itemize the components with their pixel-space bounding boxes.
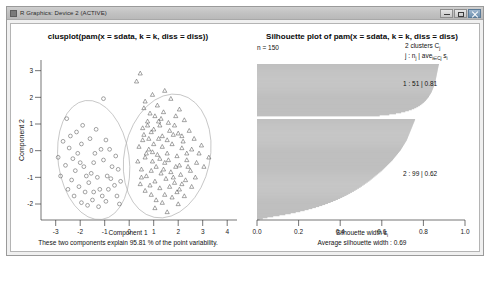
- silhouette-cluster1-label: 1 : 51 | 0.81: [403, 80, 438, 88]
- svg-text:-1: -1: [27, 174, 33, 181]
- clusplot-svg: 3210-1-2Component 2 -3-2-101234: [11, 24, 247, 252]
- clusplot-panel: clusplot(pam(x = sdata, k = k, diss = di…: [11, 24, 245, 251]
- silhouette-cluster2-label: 2 : 99 | 0.62: [403, 170, 438, 178]
- svg-text:3: 3: [29, 67, 33, 74]
- clusplot-footer: These two components explain 95.81 % of …: [11, 239, 245, 246]
- svg-text:1: 1: [29, 120, 33, 127]
- cluster2-points: [134, 71, 210, 214]
- window-titlebar[interactable]: R Graphics: Device 2 (ACTIVE): [7, 7, 483, 20]
- silhouette-xlabel: Silhouette width si: [245, 229, 479, 238]
- minimize-button[interactable]: [440, 9, 453, 18]
- svg-text:2: 2: [29, 94, 33, 101]
- silhouette-n-label: n = 150: [257, 44, 279, 51]
- silhouette-footer: Average silhouette width : 0.69: [245, 239, 479, 246]
- svg-text:0: 0: [29, 147, 33, 154]
- close-button[interactable]: [468, 9, 481, 18]
- window-title: R Graphics: Device 2 (ACTIVE): [20, 10, 107, 16]
- silhouette-clusters-label: 2 clusters Cj: [405, 42, 440, 51]
- r-graphics-window: R Graphics: Device 2 (ACTIVE) clusplot(p…: [6, 6, 484, 256]
- window-controls: [440, 9, 481, 18]
- clusplot-xlabel: Component 1: [11, 229, 245, 236]
- silhouette-panel: Silhouette plot of pam(x = sdata, k = k,…: [245, 24, 479, 251]
- svg-text:Component 2: Component 2: [18, 119, 26, 161]
- silhouette-bars: [257, 64, 439, 220]
- plot-canvas: clusplot(pam(x = sdata, k = k, diss = di…: [10, 23, 480, 252]
- cluster-ellipses: [50, 86, 222, 226]
- r-graphics-icon: [10, 10, 17, 17]
- silhouette-svg: n = 150 2 clusters Cj j : nj | avei∈Cj s…: [245, 24, 480, 252]
- maximize-button[interactable]: [454, 9, 467, 18]
- silhouette-legend-formula: j : nj | avei∈Cj si: [404, 52, 448, 61]
- svg-text:-2: -2: [27, 200, 33, 207]
